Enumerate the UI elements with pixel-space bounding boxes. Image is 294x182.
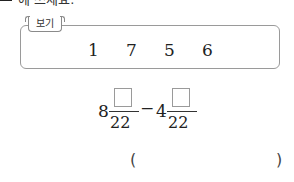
numerator-blank-1[interactable]: [114, 88, 132, 107]
bogi-tab-label: 보기: [28, 17, 62, 32]
minus-operator: −: [140, 98, 154, 118]
denominator-1: 22: [110, 113, 130, 132]
bogi-number: 1: [88, 40, 99, 60]
fraction-bar: [109, 111, 139, 112]
bullet-marker-icon: [0, 0, 12, 1]
answer-field[interactable]: [160, 150, 260, 172]
mixed-number-whole-2: 4: [156, 101, 167, 121]
instruction-text: 에 쓰세요.: [0, 0, 74, 5]
denominator-2: 22: [168, 113, 188, 132]
numerator-blank-2[interactable]: [172, 88, 190, 107]
bogi-number: 5: [164, 40, 175, 60]
mixed-number-whole-1: 8: [98, 101, 109, 121]
bogi-number-list: 1 7 5 6: [80, 40, 240, 60]
answer-close-paren: ): [276, 150, 282, 172]
bogi-number: 6: [202, 40, 213, 60]
answer-open-paren: (: [130, 150, 136, 172]
fraction-bar: [167, 111, 197, 112]
bogi-number: 7: [126, 40, 137, 60]
instruction-label: 에 쓰세요.: [18, 0, 74, 8]
